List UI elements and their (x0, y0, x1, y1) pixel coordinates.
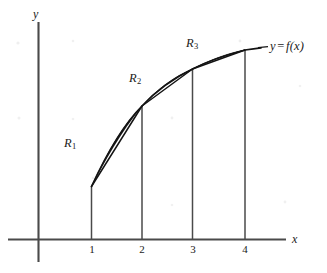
region-label-r3: R3 (186, 36, 198, 51)
chord-r2 (142, 69, 193, 106)
x-tick-label-1: 1 (85, 243, 99, 255)
curve-label-leader (258, 47, 268, 48)
function-label-operator: = (276, 39, 286, 53)
region-label-r3-letter: R (186, 36, 194, 50)
x-tick-label-2: 2 (135, 243, 149, 255)
function-label-lhs: y (270, 39, 276, 53)
scan-artifacts (16, 40, 301, 207)
function-label-rhs: f(x) (286, 39, 304, 53)
x-axis-label: x (292, 232, 297, 247)
region-label-r2-letter: R (129, 71, 137, 85)
region-label-r1-letter: R (64, 136, 72, 150)
x-tick-label-3: 3 (186, 243, 200, 255)
region-label-r1: R1 (64, 136, 76, 151)
region-label-r2: R2 (129, 71, 141, 86)
region-label-r2-index: 2 (137, 76, 141, 86)
function-equation-label: y=f(x) (270, 39, 304, 54)
x-tick-label-4: 4 (238, 243, 252, 255)
figure-canvas: y x 1 2 3 4 R1 R2 R3 y=f(x) (0, 0, 327, 273)
function-curve (92, 48, 262, 187)
region-label-r3-index: 3 (194, 41, 198, 51)
y-axis-label: y (33, 7, 38, 22)
region-label-r1-index: 1 (72, 141, 76, 151)
chord-r1 (92, 106, 143, 187)
